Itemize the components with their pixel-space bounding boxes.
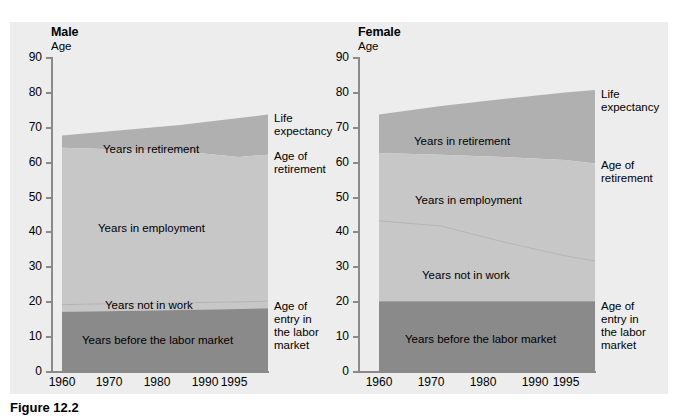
annotation-age-of-entry-female-line2: entry in	[601, 313, 646, 326]
annotation-age-of-entry-male-line2: entry in	[274, 313, 319, 326]
chart-male: Male Age 90 80 70 60 50 40 30 20 10 0 19…	[10, 22, 349, 394]
annotation-age-of-entry-male-line3: the labor	[274, 326, 319, 339]
figure-panel: Male Age 90 80 70 60 50 40 30 20 10 0 19…	[10, 22, 668, 394]
annotation-age-of-entry-female-line1: Age of	[601, 300, 646, 313]
band-label-years-not-in-work-female: Years not in work	[422, 269, 510, 281]
annotation-age-of-entry-female: Age of entry in the labor market	[601, 300, 646, 352]
annotation-life-expectancy-male-line2: expectancy	[274, 125, 332, 138]
annotation-life-expectancy-male: Life expectancy	[274, 112, 332, 138]
annotation-age-of-entry-male-line4: market	[274, 339, 319, 352]
band-label-years-in-retirement-female: Years in retirement	[414, 135, 510, 147]
band-label-years-before-labor-market-female: Years before the labor market	[405, 333, 556, 345]
annotation-age-of-entry-female-line3: the labor	[601, 326, 646, 339]
annotation-life-expectancy-female: Life expectancy	[601, 88, 659, 114]
chart-female: Female Age 90 80 70 60 50 40 30 20 10 0 …	[330, 22, 669, 394]
band-label-years-before-labor-market-male: Years before the labor market	[82, 334, 233, 346]
annotation-age-of-retirement-male: Age of retirement	[274, 150, 326, 176]
annotation-age-of-entry-female-line4: market	[601, 339, 646, 352]
annotation-life-expectancy-female-line1: Life	[601, 88, 659, 101]
figure-caption: Figure 12.2	[10, 400, 79, 415]
band-label-years-in-retirement-male: Years in retirement	[103, 143, 199, 155]
annotation-age-of-retirement-female: Age of retirement	[601, 159, 653, 185]
annotation-age-of-retirement-female-line1: Age of	[601, 159, 653, 172]
band-years-in-retirement-female	[379, 90, 595, 163]
band-label-years-not-in-work-male: Years not in work	[105, 299, 193, 311]
band-label-years-in-employment-male: Years in employment	[98, 222, 205, 234]
annotation-life-expectancy-female-line2: expectancy	[601, 101, 659, 114]
annotation-age-of-retirement-male-line2: retirement	[274, 163, 326, 176]
annotation-age-of-retirement-female-line2: retirement	[601, 172, 653, 185]
annotation-age-of-entry-male: Age of entry in the labor market	[274, 300, 319, 352]
band-label-years-in-employment-female: Years in employment	[415, 194, 522, 206]
annotation-age-of-retirement-male-line1: Age of	[274, 150, 326, 163]
annotation-age-of-entry-male-line1: Age of	[274, 300, 319, 313]
annotation-life-expectancy-male-line1: Life	[274, 112, 332, 125]
